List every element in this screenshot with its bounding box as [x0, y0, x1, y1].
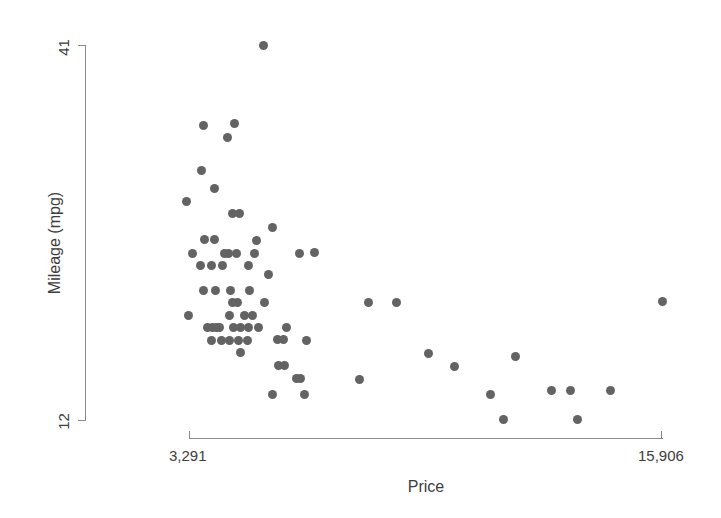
- data-point: [273, 335, 282, 344]
- data-point: [264, 270, 273, 279]
- y-axis-tick-max: [78, 45, 86, 46]
- data-point: [606, 386, 615, 395]
- data-point: [486, 390, 495, 399]
- data-point: [211, 286, 220, 295]
- x-axis-tick-label-min: 3,291: [169, 448, 207, 463]
- x-axis-title: Price: [189, 479, 663, 495]
- data-point: [228, 209, 237, 218]
- data-point: [217, 336, 226, 345]
- data-point: [225, 336, 234, 345]
- y-axis-title: Mileage (mpg): [47, 143, 63, 343]
- data-point: [199, 121, 208, 130]
- y-axis-tick-label-min: 12: [56, 407, 71, 437]
- data-point: [658, 297, 667, 306]
- data-point: [243, 336, 252, 345]
- data-point: [196, 261, 205, 270]
- data-point: [292, 374, 301, 383]
- data-point: [233, 298, 242, 307]
- data-point: [547, 386, 556, 395]
- data-point: [248, 311, 257, 320]
- scatter-plot-figure: 41 12 3,291 15,906 Mileage (mpg) Price: [0, 0, 721, 518]
- data-point: [199, 286, 208, 295]
- data-point: [274, 361, 283, 370]
- data-point: [228, 298, 237, 307]
- data-point: [235, 209, 244, 218]
- data-point: [268, 390, 277, 399]
- data-point: [280, 361, 289, 370]
- data-point: [450, 362, 459, 371]
- data-point: [244, 323, 253, 332]
- data-point: [573, 415, 582, 424]
- data-point: [268, 223, 277, 232]
- data-point: [200, 235, 209, 244]
- data-point: [279, 335, 288, 344]
- data-point: [254, 323, 263, 332]
- data-point: [310, 248, 319, 257]
- data-point: [223, 133, 232, 142]
- data-point: [240, 311, 249, 320]
- data-point: [295, 249, 304, 258]
- data-point: [225, 311, 234, 320]
- y-axis-tick-label-max: 41: [56, 33, 71, 63]
- data-point: [188, 249, 197, 258]
- data-point: [207, 261, 216, 270]
- data-point: [218, 261, 227, 270]
- data-point: [203, 323, 212, 332]
- data-point: [207, 336, 216, 345]
- data-point: [260, 298, 269, 307]
- data-point: [424, 349, 433, 358]
- data-point: [245, 286, 254, 295]
- data-point: [210, 235, 219, 244]
- data-point: [296, 374, 305, 383]
- data-point: [392, 298, 401, 307]
- data-point: [212, 323, 221, 332]
- data-point: [236, 348, 245, 357]
- data-point: [224, 249, 233, 258]
- data-point: [208, 323, 217, 332]
- data-point: [236, 323, 245, 332]
- data-point: [232, 249, 241, 258]
- data-point: [197, 166, 206, 175]
- plot-area: [0, 0, 721, 518]
- data-point: [250, 249, 259, 258]
- x-axis-line: [189, 438, 663, 439]
- data-point: [182, 197, 191, 206]
- y-axis-tick-min: [78, 420, 86, 421]
- data-point: [566, 386, 575, 395]
- data-point: [355, 375, 364, 384]
- data-point: [511, 352, 520, 361]
- data-point: [302, 336, 311, 345]
- data-point: [300, 390, 309, 399]
- data-point: [259, 41, 268, 50]
- y-axis-line: [85, 45, 86, 421]
- x-axis-tick-min: [189, 431, 190, 439]
- data-point: [184, 311, 193, 320]
- x-axis-tick-max: [661, 431, 662, 439]
- data-point: [230, 119, 239, 128]
- data-point: [499, 415, 508, 424]
- data-point: [364, 298, 373, 307]
- data-point: [229, 323, 238, 332]
- data-point: [244, 261, 253, 270]
- data-point: [215, 323, 224, 332]
- data-point: [282, 323, 291, 332]
- data-point: [234, 336, 243, 345]
- data-point: [252, 236, 261, 245]
- data-point: [226, 286, 235, 295]
- data-point: [210, 184, 219, 193]
- x-axis-tick-label-max: 15,906: [638, 448, 684, 463]
- data-point: [220, 249, 229, 258]
